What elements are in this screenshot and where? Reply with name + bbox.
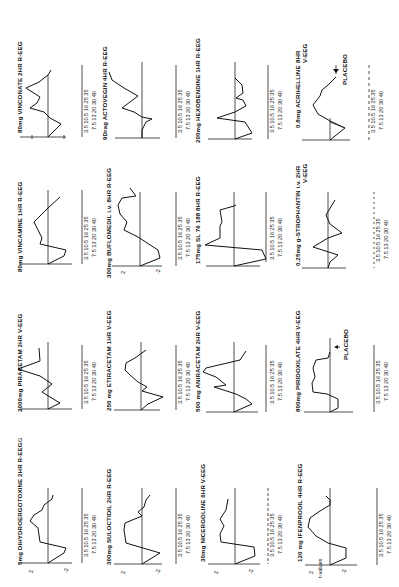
axis-tick-label: 2 (28, 570, 34, 573)
panel-label: 5mg DIHYDROERGOTOXINE 2HR R-EEG (16, 442, 23, 565)
panel-suloctidil: 300mg SULOCTIDIL 2HR R-EEG 2 -2 3.5 10.5… (105, 469, 191, 574)
panel-etiracetam: 250 mg ETIRACETAM 1HR V-EEG 3.5 10.5 16 … (105, 310, 191, 411)
panel-label: 0.8mg ACRIHELLINE (294, 65, 301, 128)
curve (26, 70, 61, 137)
axis-tick-label: 7.5 13 20 30 40 (91, 515, 97, 554)
axis-tick-label: -2 (341, 569, 347, 574)
curve (18, 348, 60, 409)
axis-tick-label: 7.5 13 20 30 40 (383, 220, 389, 259)
panel-label: 80mg VINCONATE 2HR R-EEG (16, 41, 23, 133)
curve (313, 77, 345, 140)
axis-tick-label: 3.5 10.5 16 25 35 (269, 89, 275, 133)
panel-vincamine: 80mg VINCAMINE 1HR R-EEG 3.5 10.5 16 25 … (16, 181, 97, 272)
panel-label: 80mg VINCAMINE 1HR R-EEG (16, 181, 23, 272)
axis-tick-label: 3.5 10.5 16 25 35 (269, 513, 275, 557)
axis-line (330, 122, 345, 128)
panel-label: 2000mg PIRACETAM 2HR V-EEG (16, 313, 23, 412)
panel-strophantin: 0.25mg g-STROPHANTIN i.v. 2HR V-EEG 3.5 … (294, 164, 389, 268)
panel-label: 300mg BUFLOMEDIL i.v. 8HR R-EEG (105, 168, 112, 278)
panel-label: 120 mg IFENPRODIL 4HR R-EEG (296, 463, 303, 562)
panel-label: 500 mg ANIRACETAM 2HR V-EEG (194, 311, 201, 412)
axis-tick-label: 7.5 13 20 30 40 (185, 515, 191, 554)
panel-label: 300mg SULOCTIDIL 2HR R-EEG (105, 469, 112, 565)
axis-tick-label: 2 (120, 571, 126, 574)
panel-vinconate: 80mg VINCONATE 2HR R-EEG 3.5 10.5 16 25 … (16, 41, 97, 139)
panel-hexobendine: 200mg HEXOBENDINE 1HR R-EEG 3.5 10.5 16 … (194, 38, 283, 143)
axis-tick-label: 7.5 13 20 30 40 (383, 362, 389, 401)
panel-label: PLACEBO (342, 329, 349, 360)
axis-tick-label: G (17, 438, 23, 442)
axis-tick-label: 2 (308, 571, 314, 574)
axis-tick-label: 3.5 10.5 16 25 35 (83, 89, 89, 133)
axis-tick-label: 3.5 10.5 16 25 35 (375, 360, 381, 404)
axis-tick-label: 7.5 13 20 30 40 (185, 218, 191, 257)
axis-tick-label: 7.5 13 20 30 40 (378, 91, 384, 130)
panel-piracetam: 2000mg PIRACETAM 2HR V-EEG 3.5 10.5 16 2… (16, 313, 97, 442)
axis-tick-label: 7.5 13 20 30 40 (277, 218, 283, 257)
panel-label: 200mg HEXOBENDINE 1HR R-EEG (194, 38, 201, 143)
axis-tick-label: 7.5 13 20 30 40 (91, 218, 97, 257)
panel-label: 0.25mg g-STROPHANTIN i.v. 2HR (294, 165, 301, 266)
curve (34, 197, 66, 264)
panel-label: 800mg PIRIDOXILATE 4HR V-EEG (294, 310, 301, 412)
axis-tick-label: 3.5 10.5 16 25 35 (83, 513, 89, 557)
axis-tick-label: -2 (155, 269, 161, 274)
axis-tick-label: 3.5 10.5 16 25 35 (177, 513, 183, 557)
panel-label: V-EEG (301, 44, 308, 63)
placebo-arrow-icon (333, 65, 339, 74)
axis-line (334, 345, 338, 349)
curve (220, 499, 255, 564)
axis-tick-label: 7.5 13 20 30 40 (277, 362, 283, 401)
panel-aniracetam: 500 mg ANIRACETAM 2HR V-EEG 3.5 10.5 16 … (194, 311, 283, 412)
curve (125, 350, 163, 410)
axis-tick-label: -2 (63, 568, 69, 573)
curve (308, 496, 346, 565)
panel-dihydroergotoxine: 5mg DIHYDROERGOTOXINE 2HR R-EEG 2 -2 3.5… (16, 442, 97, 573)
panel-nicergoline: 30mg NICERGOLINE 6HR V-EEG 2 -2 3.5 10.5… (199, 464, 283, 574)
axis-tick-label: 3.5 10.5 16 25 35 (269, 360, 275, 404)
panel-label: 8HR (294, 50, 301, 63)
axis-tick-label: 3.5 10.5 16 25 35 (177, 360, 183, 404)
panel-acrihelline: 0.8mg ACRIHELLINE 8HR V-EEG PLACEBO 3.5 … (294, 44, 384, 140)
curve (313, 200, 342, 268)
axis-tick-label: 7.5 13 20 30 40 (386, 515, 392, 554)
axis-tick-label: 7.5 13 20 30 40 (277, 515, 283, 554)
axis-tick-label: 3.5 10.5 16 25 35 (370, 89, 376, 133)
axis-tick-label: 7.5 13 20 30 40 (185, 362, 191, 401)
curve (203, 351, 252, 412)
axis-tick-label: 7.5 13 20 30 40 (277, 91, 283, 130)
curve (312, 352, 338, 412)
axis-tick-label: 7.5 13 20 30 40 (91, 91, 97, 130)
panel-label: 175mg SL 76 188 8HR R-EEG (194, 176, 201, 264)
axis-tick-label: 3.5 10.5 16 25 35 (269, 216, 275, 260)
axis-tick-label: 2 (213, 571, 219, 574)
curve (109, 72, 152, 138)
panel-ifenprodil: 120 mg IFENPRODIL 4HR R-EEG 2 t-values -… (296, 463, 392, 578)
axis-tick-label: 3.5 10.5 16 25 35 (375, 218, 381, 262)
axis-tick-label: -2 (248, 569, 254, 574)
axis-tick-label: 3.5 10.5 16 25 35 (177, 89, 183, 133)
panel-piridoxilate: 800mg PIRIDOXILATE 4HR V-EEG PLACEBO 3.5… (294, 310, 389, 412)
panel-label: V-EEG (301, 164, 308, 183)
axis-tick-label: 3.5 10.5 16 25 35 (177, 216, 183, 260)
panel-buflomedil: 300mg BUFLOMEDIL i.v. 8HR R-EEG 2 -2 3.5… (105, 168, 191, 278)
panel-sl76188: 175mg SL 76 188 8HR R-EEG 3.5 10.5 16 25… (194, 176, 283, 266)
curve (118, 188, 160, 266)
axis-tick-label: 3.5 10.5 16 25 35 (378, 513, 384, 557)
panel-label: 30mg NICERGOLINE 6HR V-EEG (199, 464, 206, 562)
figure-panel-grid: 80mg VINCONATE 2HR R-EEG 3.5 10.5 16 25 … (0, 0, 399, 587)
axis-line (333, 69, 339, 73)
axis-tick-label: 7.5 13 20 30 40 (91, 362, 97, 401)
panel-label: PLACEBO (341, 54, 348, 85)
axis-tick-label: t-values (317, 558, 323, 578)
axis-tick-label: 3.5 10.5 16 25 35 (83, 360, 89, 404)
axis-tick-label: 2 (120, 271, 126, 274)
curve (217, 78, 252, 139)
axis-tick-label: 3.5 10.5 16 25 35 (83, 216, 89, 260)
axis-tick-label: 7.5 13 20 30 40 (185, 91, 191, 130)
panel-actovegin: 9Drag ACTOVEGIN 4HR R-EEG 3.5 10.5 16 25… (101, 46, 191, 140)
axis-tick-label: -2 (155, 569, 161, 574)
curve (205, 205, 266, 266)
panel-label: 250 mg ETIRACETAM 1HR V-EEG (105, 310, 112, 411)
placebo-arrow-icon (334, 345, 340, 349)
